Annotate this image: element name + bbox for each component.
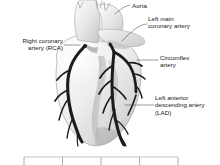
label-aorta: Aorta: [132, 2, 147, 9]
label-left-main-coronary-artery: Left main coronary artery: [148, 15, 190, 30]
label-left-anterior-descending-artery: Left anterior descending artery (LAD): [155, 94, 205, 116]
scale-bar-ticks: [24, 157, 178, 165]
label-circumflex-artery: Circumflex artery: [160, 54, 189, 69]
figure-canvas: Aorta Left main coronary artery Right co…: [0, 0, 220, 165]
label-right-coronary-artery: Right coronary artery (RCA): [2, 37, 63, 52]
scale-bar: [0, 148, 220, 165]
